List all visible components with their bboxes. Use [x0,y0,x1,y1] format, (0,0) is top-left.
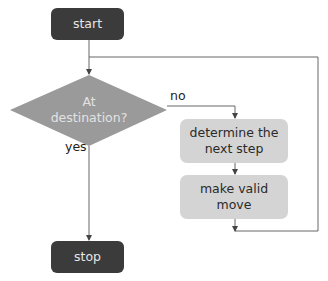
determine-step-node: determine the next step [180,119,288,163]
yes-label: yes [65,139,87,154]
stop-node: stop [51,241,124,273]
start-label: start [73,16,102,32]
determine-label-line2: next step [205,141,264,157]
make-move-node: make valid move [180,175,288,219]
no-label: no [170,88,186,103]
move-label-line1: make valid [200,181,268,197]
decision-node: At destination? [30,92,148,128]
move-label-line2: move [217,197,252,213]
decision-label-line2: destination? [51,110,128,126]
decision-label-line1: At [82,94,95,110]
determine-label-line1: determine the [190,125,279,141]
stop-label: stop [74,249,101,265]
start-node: start [51,8,124,40]
